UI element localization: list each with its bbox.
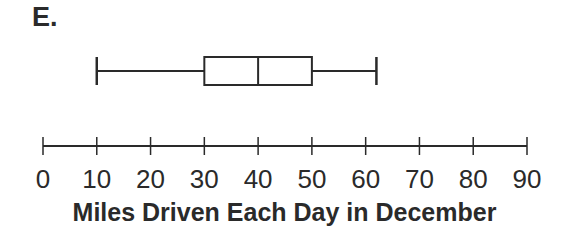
- x-axis-tick-label: 80: [459, 164, 488, 194]
- x-axis-tick-label: 60: [351, 164, 380, 194]
- x-axis-label: Miles Driven Each Day in December: [0, 198, 569, 227]
- x-axis-tick-label: 90: [513, 164, 542, 194]
- x-axis-tick-label: 40: [244, 164, 273, 194]
- x-axis-tick-label: 50: [297, 164, 326, 194]
- x-axis-tick-label: 70: [405, 164, 434, 194]
- x-axis-tick-label: 30: [190, 164, 219, 194]
- x-axis-tick-label: 0: [36, 164, 50, 194]
- x-axis-tick-label: 10: [82, 164, 111, 194]
- x-axis-tick-label: 20: [136, 164, 165, 194]
